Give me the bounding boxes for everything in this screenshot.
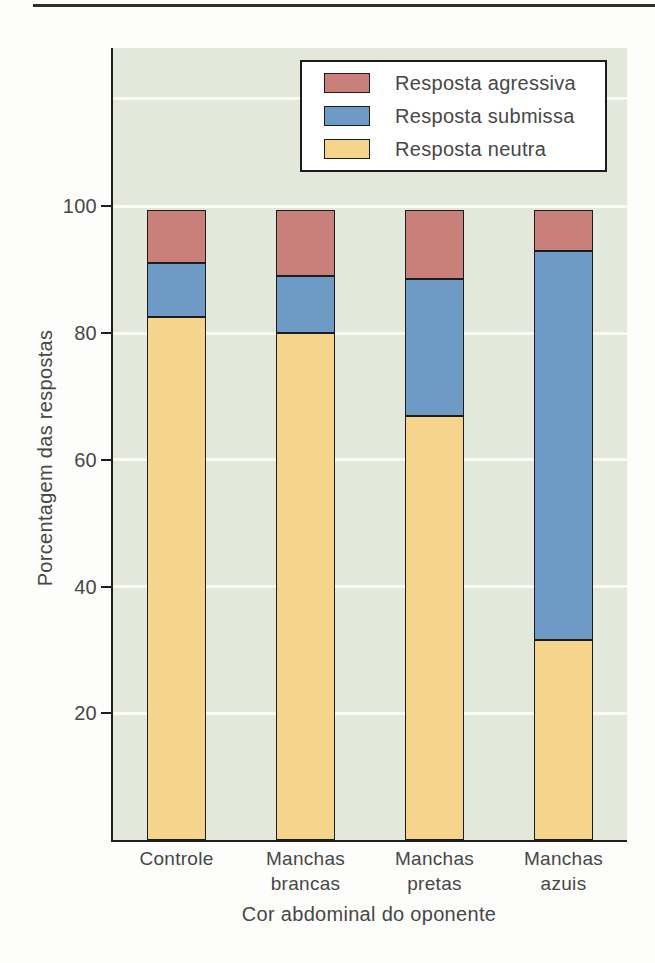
legend-item: Resposta submissa [302,100,605,133]
y-tick-label: 100 [53,196,97,216]
bar-segment-resposta-submissa [276,276,335,333]
page-top-rule [33,4,655,7]
y-tick-mark [101,712,111,714]
x-tick-label: Manchasbrancas [266,846,345,896]
legend-swatch-submissa [324,106,370,126]
y-tick-mark [101,459,111,461]
x-tick-label: Manchaspretas [395,846,474,896]
x-tick-label: Controle [139,846,213,871]
legend-item: Resposta neutra [302,133,605,166]
bar-segment-resposta-agressiva [534,210,593,251]
y-tick-label: 80 [53,323,97,343]
x-axis-title: Cor abdominal do oponente [111,903,627,926]
legend-item: Resposta agressiva [302,67,605,100]
legend-label: Resposta submissa [395,105,575,128]
legend: Resposta agressiva Resposta submissa Res… [300,60,607,172]
bar-segment-resposta-agressiva [405,210,464,280]
legend-label: Resposta agressiva [395,72,576,95]
y-tick-label: 40 [53,577,97,597]
bar-segment-resposta-neutra [405,416,464,841]
y-tick-mark [101,586,111,588]
bar-controle [147,210,206,840]
bar-segment-resposta-submissa [405,279,464,415]
legend-swatch-neutra [324,139,370,159]
x-tick-label: Manchasazuis [524,846,603,896]
bar-manchas-azuis [534,210,593,840]
bar-segment-resposta-submissa [147,263,206,317]
y-tick-mark [101,205,111,207]
y-tick-label: 60 [53,450,97,470]
figure: Porcentagem das respostas 20406080100 Re… [0,0,655,963]
bar-segment-resposta-agressiva [276,210,335,277]
x-axis-category-labels: ControleManchasbrancasManchaspretasManch… [111,846,627,902]
bar-segment-resposta-neutra [276,333,335,840]
bar-segment-resposta-submissa [534,251,593,641]
legend-label: Resposta neutra [395,138,546,161]
gridline [113,205,627,208]
y-tick-label: 20 [53,703,97,723]
bar-manchas-brancas [276,210,335,840]
legend-swatch-agressiva [324,73,370,93]
y-tick-mark [101,332,111,334]
bar-manchas-pretas [405,210,464,840]
bar-segment-resposta-neutra [147,317,206,840]
bar-segment-resposta-agressiva [147,210,206,264]
bar-segment-resposta-neutra [534,640,593,840]
